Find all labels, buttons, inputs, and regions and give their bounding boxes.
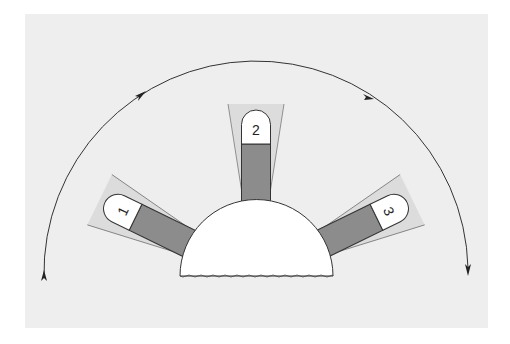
position-label: 2 [252, 122, 260, 138]
bar-2: 2 [242, 110, 271, 204]
rotation-diagram: 123 [0, 0, 510, 344]
bar-body [242, 144, 271, 204]
